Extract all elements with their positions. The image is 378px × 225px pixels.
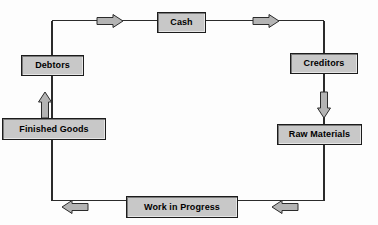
arrow-finished-goods-to-debtors-icon [39,92,52,118]
arrow-creditors-to-raw-materials-icon [318,92,331,118]
arrow-debtors-to-cash-icon [97,15,123,28]
node-cash[interactable]: Cash [157,12,206,33]
node-debtors[interactable]: Debtors [21,55,84,76]
arrow-glyphs [39,15,331,214]
arrow-cash-to-creditors-icon [253,15,279,28]
node-cash-label: Cash [170,18,192,27]
node-creditors[interactable]: Creditors [290,53,358,74]
node-work-in-progress[interactable]: Work in Progress [126,196,238,218]
node-debtors-label: Debtors [35,61,70,70]
arrow-raw-materials-to-wip-icon [272,201,298,214]
working-capital-cycle-diagram: Cash Creditors Raw Materials Work in Pro… [0,0,378,225]
node-finished-goods-label: Finished Goods [19,124,88,133]
connector-lines [52,21,324,201]
node-raw-materials-label: Raw Materials [289,130,350,139]
diagram-connectors-layer [0,0,378,225]
node-raw-materials[interactable]: Raw Materials [277,124,362,145]
node-finished-goods[interactable]: Finished Goods [2,118,106,140]
node-creditors-label: Creditors [304,59,345,68]
arrow-wip-to-finished-goods-icon [62,201,88,214]
node-work-in-progress-label: Work in Progress [144,202,220,211]
